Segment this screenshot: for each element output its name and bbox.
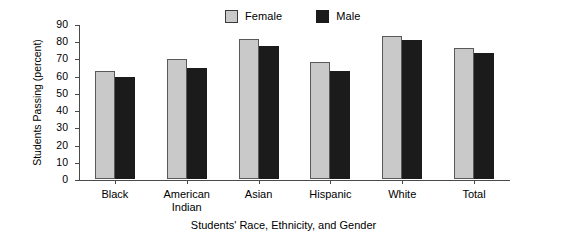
y-tick: 70 [75, 59, 79, 60]
category-label-line: Total [438, 188, 510, 201]
y-tick: 50 [75, 94, 79, 95]
bar-hispanic-male [330, 71, 350, 180]
y-tick: 90 [75, 25, 79, 26]
legend-swatch-male-icon [316, 10, 329, 23]
y-axis-line [79, 25, 80, 181]
plot-area: 0102030405060708090 BlackAmericanIndianA… [79, 25, 510, 180]
bar-black-male [115, 77, 135, 179]
y-tick-label: 40 [56, 105, 68, 116]
x-tick [330, 180, 331, 184]
category-label-line: White [366, 188, 438, 201]
y-tick: 60 [75, 77, 79, 78]
category-label-total: Total [438, 188, 510, 201]
category-label-hispanic: Hispanic [295, 188, 367, 201]
category-label-line: Black [79, 188, 151, 201]
y-tick-label: 0 [62, 174, 68, 185]
bar-black-female [95, 71, 115, 180]
y-tick: 30 [75, 128, 79, 129]
y-tick-label: 10 [56, 157, 68, 168]
x-tick [115, 180, 116, 184]
x-tick [259, 180, 260, 184]
chart-legend: Female Male [225, 8, 405, 24]
x-tick [187, 180, 188, 184]
bar-total-male [474, 53, 494, 179]
legend-swatch-female-icon [225, 10, 238, 23]
bar-hispanic-female [310, 62, 330, 179]
y-axis-title: Students Passing (percent) [32, 23, 43, 183]
category-label-line: Asian [223, 188, 295, 201]
category-label-black: Black [79, 188, 151, 201]
y-tick-label: 50 [56, 88, 68, 99]
y-tick-label: 30 [56, 122, 68, 133]
bar-asian-male [259, 46, 279, 179]
y-tick-label: 90 [56, 19, 68, 30]
category-label-line: American [151, 188, 223, 201]
bar-asian-female [239, 39, 259, 179]
y-tick: 10 [75, 163, 79, 164]
bar-american-indian-female [167, 59, 187, 179]
legend-entry-female: Female [225, 10, 282, 23]
y-tick: 20 [75, 146, 79, 147]
x-tick [402, 180, 403, 184]
category-label-line: Hispanic [295, 188, 367, 201]
x-axis-title: Students' Race, Ethnicity, and Gender [0, 219, 567, 231]
legend-label-male: Male [336, 11, 360, 22]
category-label-american-indian: AmericanIndian [151, 188, 223, 213]
y-tick-label: 80 [56, 36, 68, 47]
category-label-asian: Asian [223, 188, 295, 201]
category-label-line: Indian [151, 201, 223, 214]
bar-total-female [454, 48, 474, 179]
x-axis-line [79, 180, 510, 181]
bar-american-indian-male [187, 68, 207, 179]
bar-white-male [402, 40, 422, 179]
y-tick: 0 [75, 180, 79, 181]
legend-entry-male: Male [316, 10, 360, 23]
category-label-white: White [366, 188, 438, 201]
x-tick [474, 180, 475, 184]
y-tick: 40 [75, 111, 79, 112]
legend-label-female: Female [245, 11, 282, 22]
y-tick-label: 20 [56, 140, 68, 151]
bar-chart-figure: Female Male Students Passing (percent) 0… [0, 0, 567, 241]
y-tick: 80 [75, 42, 79, 43]
y-tick-label: 70 [56, 53, 68, 64]
bar-white-female [382, 36, 402, 179]
y-tick-label: 60 [56, 71, 68, 82]
